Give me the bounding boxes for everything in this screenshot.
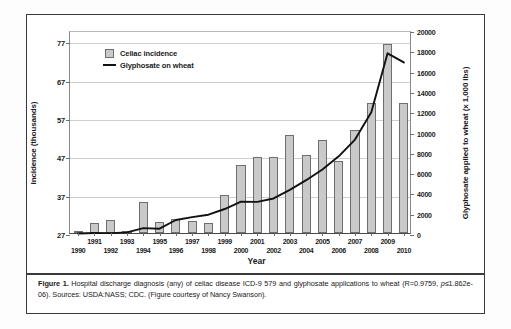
x-axis-tick-label-1999: 1999 bbox=[218, 238, 232, 245]
y-axis-right-tick-label: 12000 bbox=[417, 110, 435, 117]
x-axis-tick-mark bbox=[306, 233, 307, 236]
y-axis-left-tick-mark bbox=[66, 197, 70, 198]
x-axis-tick-mark bbox=[94, 233, 95, 236]
x-axis-tick-mark bbox=[339, 233, 340, 236]
x-axis-tick-label-2002: 2002 bbox=[266, 247, 280, 254]
x-axis-tick-label-2005: 2005 bbox=[315, 238, 329, 245]
x-axis-tick-label-2007: 2007 bbox=[348, 238, 362, 245]
y-axis-left-tick-mark bbox=[66, 82, 70, 83]
y-axis-right-tick-label: 8000 bbox=[417, 150, 432, 157]
x-axis-tick-mark bbox=[143, 233, 144, 236]
y-axis-right-tick-label: 6000 bbox=[417, 171, 432, 178]
x-axis-tick-label-2009: 2009 bbox=[380, 238, 394, 245]
legend-label: Glyphosate on wheat bbox=[120, 61, 194, 70]
x-axis-tick-label-1998: 1998 bbox=[201, 247, 215, 254]
x-axis-tick-label-1996: 1996 bbox=[169, 247, 183, 254]
x-axis-tick-label-2006: 2006 bbox=[332, 247, 346, 254]
legend-item-glyphosate-on-wheat: Glyphosate on wheat bbox=[105, 59, 194, 71]
x-axis-tick-mark bbox=[257, 233, 258, 236]
y-axis-right-tick-mark bbox=[410, 235, 414, 236]
y-axis-right-tick-label: 14000 bbox=[417, 89, 435, 96]
x-axis-tick-label-1992: 1992 bbox=[104, 247, 118, 254]
y-axis-right-tick-label: 10000 bbox=[417, 130, 435, 137]
y-axis-right-tick-label: 20000 bbox=[417, 29, 435, 36]
y-axis-left-tick-label: 47 bbox=[41, 154, 65, 163]
x-axis-tick-mark bbox=[111, 233, 112, 236]
line-swatch-icon bbox=[103, 64, 116, 66]
y-axis-left-tick-label: 27 bbox=[41, 231, 65, 240]
x-axis-tick-mark bbox=[322, 233, 323, 236]
x-axis-tick-mark bbox=[404, 233, 405, 236]
x-axis-tick-mark bbox=[290, 233, 291, 236]
y-axis-right-tick-label: 4000 bbox=[417, 191, 432, 198]
x-axis-tick-mark bbox=[388, 233, 389, 236]
x-axis-tick-label-2001: 2001 bbox=[250, 238, 264, 245]
x-axis-tick-mark bbox=[176, 233, 177, 236]
y-axis-right-tick-mark bbox=[410, 194, 414, 195]
y-axis-right-tick-mark bbox=[410, 52, 414, 53]
x-axis-tick-mark bbox=[241, 233, 242, 236]
caption-sources: Sources: USDA:NASS; CDC. (Figure courtes… bbox=[52, 290, 266, 299]
y-axis-right-tick-mark bbox=[410, 215, 414, 216]
y-axis-right-tick-mark bbox=[410, 73, 414, 74]
x-axis-tick-label-2003: 2003 bbox=[283, 238, 297, 245]
x-axis-tick-label-1991: 1991 bbox=[87, 238, 101, 245]
y-axis-right-tick-label: 16000 bbox=[417, 69, 435, 76]
x-axis-title: Year bbox=[27, 256, 486, 266]
caption-body: Hospital discharge diagnosis (any) of ce… bbox=[69, 279, 441, 288]
legend-item-celiac-incidence: Celiac incidence bbox=[105, 47, 194, 59]
y-axis-left-tick-label: 37 bbox=[41, 192, 65, 201]
y-axis-left-tick-mark bbox=[66, 158, 70, 159]
x-axis-tick-label-2000: 2000 bbox=[234, 247, 248, 254]
figure-frame: Incidence (thousands) Glyphosate applied… bbox=[26, 14, 485, 314]
figure-page: Incidence (thousands) Glyphosate applied… bbox=[0, 0, 511, 329]
y-axis-left-tick-mark bbox=[66, 43, 70, 44]
y-axis-right-tick-label: 2000 bbox=[417, 211, 432, 218]
bar-swatch-icon bbox=[105, 49, 114, 58]
legend-label: Celiac incidence bbox=[120, 49, 177, 58]
caption-label: Figure 1. bbox=[38, 279, 69, 288]
y-axis-right-tick-mark bbox=[410, 154, 414, 155]
y-axis-left-tick-label: 67 bbox=[41, 77, 65, 86]
x-axis-tick-label-1990: 1990 bbox=[71, 247, 85, 254]
y-axis-right-tick-mark bbox=[410, 174, 414, 175]
y-axis-right-tick-label: 0 bbox=[417, 232, 421, 239]
x-axis-tick-mark bbox=[192, 233, 193, 236]
y-axis-left-title: Incidence (thousands) bbox=[29, 102, 38, 185]
x-axis-tick-label-2008: 2008 bbox=[364, 247, 378, 254]
caption-divider bbox=[27, 273, 484, 275]
x-axis-tick-mark bbox=[371, 233, 372, 236]
y-axis-right-tick-mark bbox=[410, 32, 414, 33]
chart-legend: Celiac incidence Glyphosate on wheat bbox=[105, 47, 194, 71]
x-axis-tick-mark bbox=[225, 233, 226, 236]
x-axis-tick-label-1997: 1997 bbox=[185, 238, 199, 245]
x-axis-tick-mark bbox=[78, 233, 79, 236]
x-axis-tick-label-2010: 2010 bbox=[397, 247, 411, 254]
x-axis-tick-mark bbox=[208, 233, 209, 236]
y-axis-right-tick-label: 18000 bbox=[417, 49, 435, 56]
y-axis-right-tick-mark bbox=[410, 93, 414, 94]
x-axis-tick-mark bbox=[274, 233, 275, 236]
x-axis-tick-label-2004: 2004 bbox=[299, 247, 313, 254]
y-axis-right-tick-mark bbox=[410, 134, 414, 135]
x-axis-tick-mark bbox=[355, 233, 356, 236]
figure-caption: Figure 1. Hospital discharge diagnosis (… bbox=[38, 279, 473, 300]
y-axis-left-tick-label: 57 bbox=[41, 116, 65, 125]
x-axis-tick-mark bbox=[127, 233, 128, 236]
chart-area: Incidence (thousands) Glyphosate applied… bbox=[27, 15, 486, 273]
x-axis-tick-mark bbox=[160, 233, 161, 236]
y-axis-left-tick-mark bbox=[66, 120, 70, 121]
x-axis-tick-label-1993: 1993 bbox=[120, 238, 134, 245]
y-axis-right-title: Glyphosate applied to wheat (x 1,000 lbs… bbox=[461, 67, 470, 219]
glyphosate-line-path bbox=[78, 53, 404, 233]
x-axis-tick-label-1995: 1995 bbox=[152, 238, 166, 245]
x-axis-tick-label-1994: 1994 bbox=[136, 247, 150, 254]
y-axis-left-tick-label: 77 bbox=[41, 39, 65, 48]
y-axis-right-tick-mark bbox=[410, 113, 414, 114]
y-axis-left-tick-mark bbox=[66, 235, 70, 236]
